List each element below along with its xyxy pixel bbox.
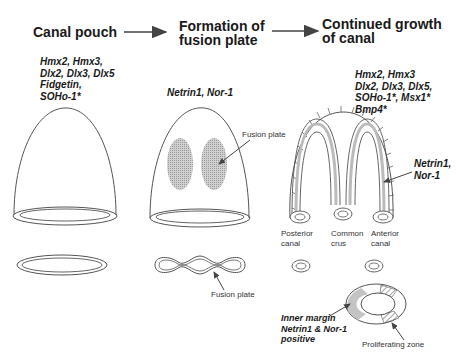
label-line: positive <box>281 334 347 345</box>
stage-title-text: Canal pouch <box>33 24 117 40</box>
gene-line: Hmx2, Hmx3, <box>40 56 114 68</box>
genes-continued-growth: Hmx2, Hmx3 Dlx2, Dlx3, Dlx5, SOHo-1*, Ms… <box>355 69 432 115</box>
label-line: Common <box>331 229 363 239</box>
continued-growth-canals <box>290 106 412 223</box>
label-inner-margin: Inner margin Netrin1 & Nor-1 positive <box>281 313 347 345</box>
label-posterior-canal: Posterior canal <box>281 229 313 248</box>
label-anterior-canal: Anterior canal <box>371 229 399 248</box>
gene-line: Hmx2, Hmx3 <box>355 69 432 81</box>
stage-title-line2: fusion plate <box>179 33 265 47</box>
canal-pouch-dome <box>13 108 117 225</box>
label-line: Anterior <box>371 229 399 239</box>
gene-line: Dlx2, Dlx3, Dlx5, <box>355 81 432 93</box>
stage-title-line1: Formation of <box>179 19 265 33</box>
label-fusion-plate-bottom: Fusion plate <box>211 290 255 300</box>
genes-canal-side: Netrin1, Nor-1 <box>414 158 451 181</box>
gene-line: Netrin1, <box>414 158 451 170</box>
fusion-plate-dome <box>150 108 250 227</box>
label-line: Netrin1 & Nor-1 <box>281 324 347 335</box>
stage-title-line2: of canal <box>322 31 442 45</box>
stage-title-line1: Continued growth <box>322 17 442 31</box>
stage-title-fusion-plate: Formation of fusion plate <box>179 19 265 47</box>
genes-canal-pouch: Hmx2, Hmx3, Dlx2, Dlx3, Dlx5 Fidgetin, S… <box>40 56 114 102</box>
label-line: canal <box>281 239 313 249</box>
label-fusion-plate-top: Fusion plate <box>242 130 286 140</box>
gene-line: Dlx2, Dlx3, Dlx5 <box>40 68 114 80</box>
genes-fusion-plate: Netrin1, Nor-1 <box>167 87 233 99</box>
fusion-plate-cross-section <box>155 256 245 290</box>
stage-title-canal-pouch: Canal pouch <box>33 25 117 39</box>
gene-line: SOHo-1* <box>40 91 114 103</box>
label-common-crus: Common crus <box>331 229 363 248</box>
gene-line: Fidgetin, <box>40 79 114 91</box>
label-line: crus <box>331 239 363 249</box>
canal-cross-sections-small <box>292 260 383 272</box>
label-line: Inner margin <box>281 313 347 324</box>
diagram-drawing <box>0 0 457 360</box>
gene-line: Netrin1, Nor-1 <box>167 87 233 99</box>
label-proliferating-zone: Proliferating zone <box>362 340 424 350</box>
gene-line: Nor-1 <box>414 170 451 182</box>
gene-line: Bmp4* <box>355 104 432 116</box>
label-line: canal <box>371 239 399 249</box>
canal-pouch-cross-section <box>17 255 107 275</box>
stage-title-continued-growth: Continued growth of canal <box>322 17 442 45</box>
gene-line: SOHo-1*, Msx1* <box>355 92 432 104</box>
label-line: Posterior <box>281 229 313 239</box>
